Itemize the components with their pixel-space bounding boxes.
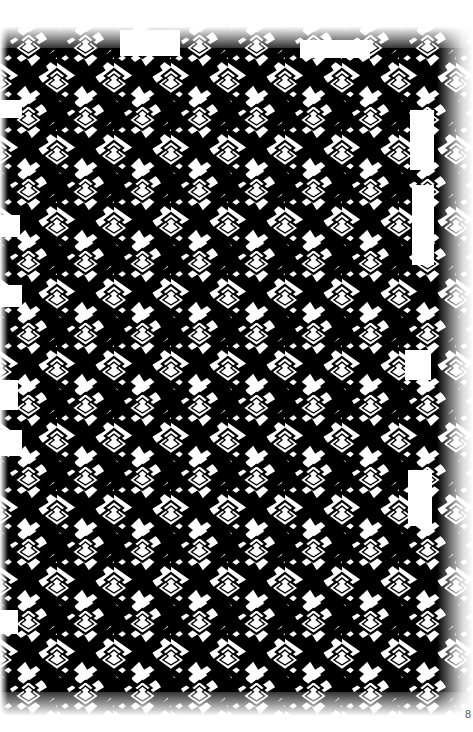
- faded-right-edge: [437, 0, 473, 732]
- page-number: 8: [465, 708, 471, 720]
- scan-artifact: [408, 470, 432, 526]
- scan-artifact: [412, 185, 434, 265]
- scan-artifact: [120, 30, 180, 56]
- scan-artifact: [0, 215, 20, 237]
- ornament-pattern: [0, 0, 473, 732]
- scan-artifact: [0, 380, 18, 410]
- scan-artifact: [0, 610, 18, 634]
- faded-top-edge: [0, 0, 473, 48]
- faded-bottom-edge: [0, 692, 473, 732]
- scan-artifact: [405, 350, 431, 380]
- scanned-page: 8: [0, 0, 473, 732]
- scan-artifact: [0, 100, 22, 118]
- scan-artifact: [0, 430, 22, 456]
- scan-artifact: [410, 110, 434, 170]
- scan-artifact: [0, 285, 22, 307]
- scan-artifact: [300, 40, 370, 58]
